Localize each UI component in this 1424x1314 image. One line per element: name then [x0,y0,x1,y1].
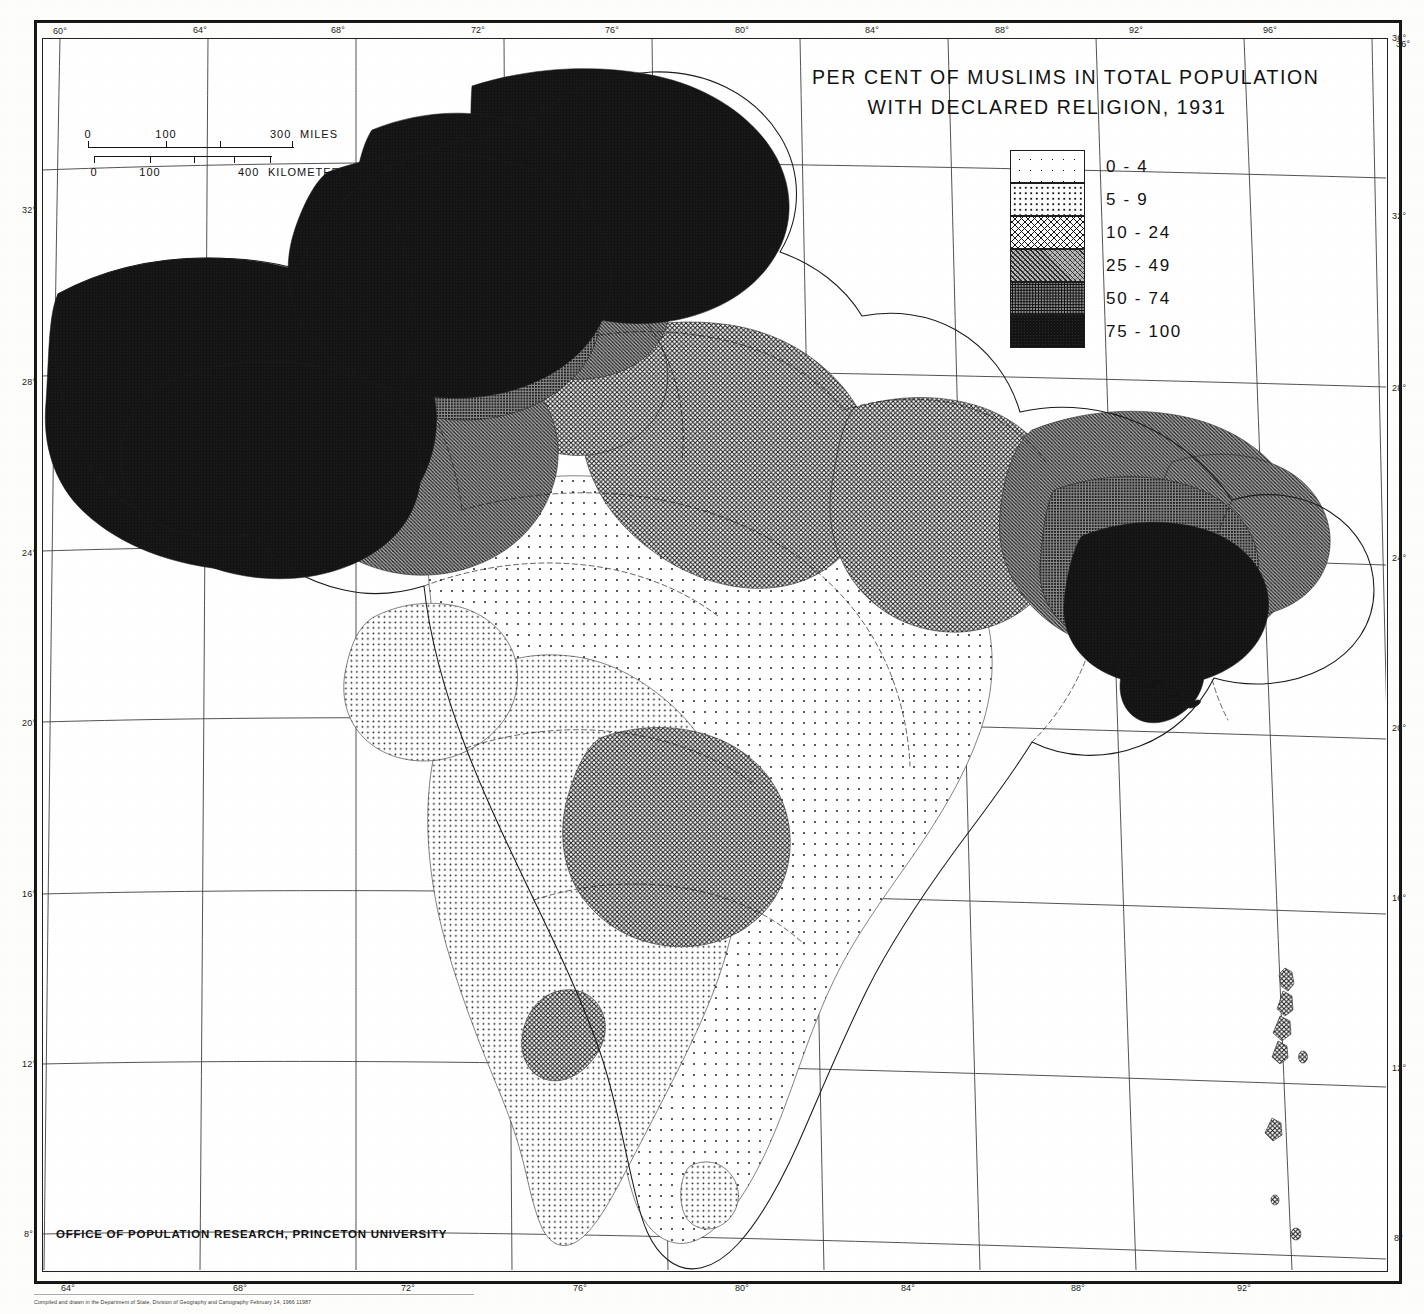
map-neatline [34,20,1402,1284]
legend-item-3[interactable]: 25 - 49 [1010,249,1182,282]
map-title-line1: PER CENT OF MUSLIMS IN TOTAL POPULATION [812,62,1282,92]
lon-label-bottom-72: 72° [401,1283,415,1293]
lon-label-bottom-68: 68° [233,1283,247,1293]
lat-label-left-32: 32° [22,205,36,215]
scale-km-tick-400 [270,156,271,163]
scale-miles-unit: MILES [300,128,338,140]
map-legend: 0 - 4 5 - 9 10 - 24 25 - 49 50 - 74 75 -… [1010,150,1182,348]
legend-item-0[interactable]: 0 - 4 [1010,150,1182,183]
lon-label-top-64: 64° [193,25,207,35]
legend-swatch-0-4 [1010,150,1085,183]
scale-miles-tick-100 [166,141,167,148]
lon-label-bottom-64: 64° [61,1283,75,1293]
lat-label-right-32: 32° [1392,211,1406,221]
lon-label-bottom-88: 88° [1071,1283,1085,1293]
legend-label-10-24: 10 - 24 [1106,223,1171,243]
lat-label-left-8: 8° [24,1229,33,1239]
scale-km-axis [94,156,272,157]
lat-label-right-24: 24° [1392,553,1406,563]
scale-km-tick-300 [234,156,235,163]
lon-label-top-80: 80° [735,25,749,35]
scale-km-unit: KILOMETERS [268,166,349,178]
lon-label-top-88: 88° [995,25,1009,35]
lon-label-top-68: 68° [331,25,345,35]
scale-miles-tick-200 [220,141,221,148]
legend-swatch-10-24 [1010,216,1085,249]
scale-miles-end: 300 [270,128,291,140]
lon-label-top-60: 60° [53,26,67,36]
legend-label-75-100: 75 - 100 [1106,322,1182,342]
lon-label-top-92: 92° [1129,25,1143,35]
scale-km-mid: 100 [139,166,160,178]
scale-km-zero: 0 [90,166,97,178]
legend-swatch-5-9 [1010,183,1085,216]
legend-label-25-49: 25 - 49 [1106,256,1171,276]
legend-item-4[interactable]: 50 - 74 [1010,282,1182,315]
lat-label-left-24: 24° [22,548,36,558]
legend-item-1[interactable]: 5 - 9 [1010,183,1182,216]
lat-label-right-28: 28° [1392,383,1406,393]
lon-label-bottom-80: 80° [735,1283,749,1293]
lat-label-left-20: 20° [22,718,36,728]
scale-bar: 0 100 300 MILES 0 100 400 KILOMETERS [88,128,354,184]
scale-miles-tick-0 [88,141,89,148]
legend-item-2[interactable]: 10 - 24 [1010,216,1182,249]
lon-label-top-76: 76° [605,25,619,35]
lat-label-left-12: 12° [22,1059,36,1069]
lat-label-left-16: 16° [22,889,36,899]
lat-label-right-36b: 36° [1392,33,1406,43]
legend-swatch-75-100 [1010,315,1085,348]
scale-km-end: 400 [238,166,259,178]
lon-label-bottom-76: 76° [573,1283,587,1293]
scale-miles-axis [88,147,294,148]
map-sheet: PER CENT OF MUSLIMS IN TOTAL POPULATION … [0,0,1424,1314]
lon-label-top-84: 84° [865,25,879,35]
lat-label-right-16: 16° [1392,893,1406,903]
publisher-credit: OFFICE OF POPULATION RESEARCH, PRINCETON… [56,1228,447,1240]
scale-miles-tick-300 [292,141,293,148]
lat-label-right-20: 20° [1392,723,1406,733]
lon-label-top-96: 96° [1263,25,1277,35]
legend-label-0-4: 0 - 4 [1106,157,1149,177]
legend-swatch-25-49 [1010,249,1085,282]
legend-label-50-74: 50 - 74 [1106,289,1171,309]
scale-km-tick-100 [150,156,151,163]
lat-label-right-12: 12° [1392,1063,1406,1073]
scale-km-tick-200 [194,156,195,163]
legend-label-5-9: 5 - 9 [1106,190,1149,210]
legend-item-5[interactable]: 75 - 100 [1010,315,1182,348]
lon-label-bottom-84: 84° [901,1283,915,1293]
lat-label-right-8: 8° [1394,1233,1403,1243]
compilation-credit: Compiled and drawn in the Department of … [34,1299,311,1305]
map-title-block: PER CENT OF MUSLIMS IN TOTAL POPULATION … [812,62,1282,122]
legend-swatch-50-74 [1010,282,1085,315]
scale-miles-zero: 0 [84,128,91,140]
lon-label-top-72: 72° [471,25,485,35]
lon-label-bottom-92: 92° [1237,1283,1251,1293]
lat-label-left-28: 28° [22,377,36,387]
footer-rule [34,1294,474,1295]
scale-km-tick-0 [94,156,95,163]
scale-miles-mid: 100 [155,128,176,140]
map-title-line2: WITH DECLARED RELIGION, 1931 [812,92,1282,122]
